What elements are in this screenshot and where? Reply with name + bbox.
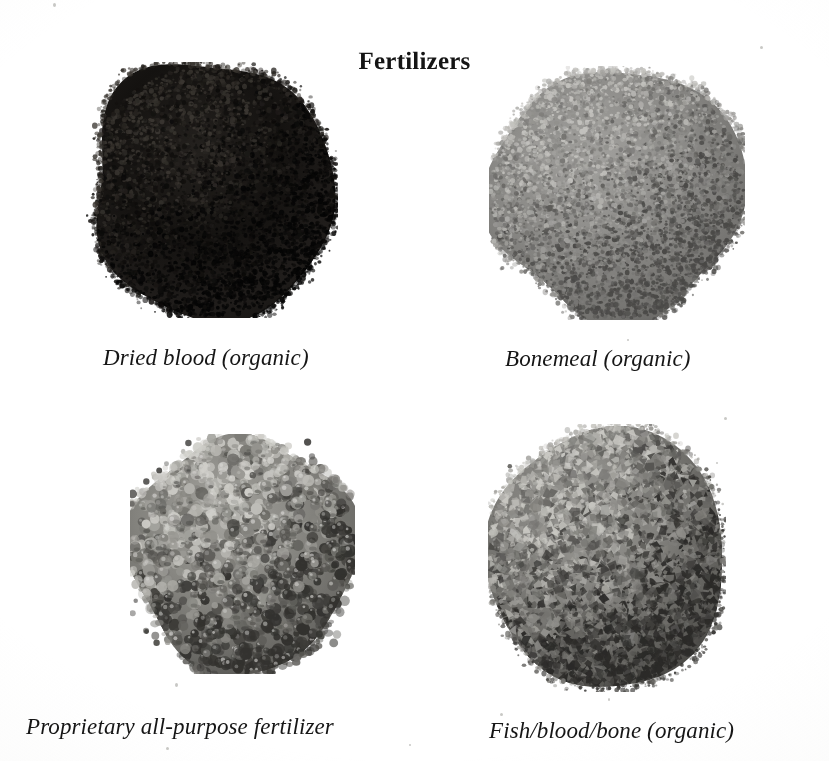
scan-speck — [627, 339, 629, 341]
scan-speck — [608, 698, 610, 701]
scan-speck — [53, 3, 56, 7]
pile-caption-fish-blood-bone: Fish/blood/bone (organic) — [489, 718, 734, 744]
scan-speck — [500, 713, 503, 716]
pile-image-bonemeal — [489, 66, 745, 320]
pile-caption-bonemeal: Bonemeal (organic) — [505, 346, 691, 372]
fertilizers-figure: Fertilizers Dried blood (organic) Boneme… — [0, 0, 829, 761]
pile-caption-proprietary-fertilizer: Proprietary all-purpose fertilizer — [26, 714, 334, 740]
scan-speck — [716, 462, 718, 464]
pile-image-proprietary-fertilizer — [130, 434, 355, 674]
scan-speck — [760, 46, 763, 49]
pile-image-dried-blood — [86, 62, 338, 318]
scan-speck — [175, 683, 178, 687]
scan-speck — [724, 417, 727, 420]
scan-speck — [409, 744, 411, 746]
pile-image-fish-blood-bone — [488, 424, 726, 692]
scan-speck — [404, 55, 406, 57]
pile-caption-dried-blood: Dried blood (organic) — [103, 345, 309, 371]
scan-speck — [166, 747, 169, 750]
